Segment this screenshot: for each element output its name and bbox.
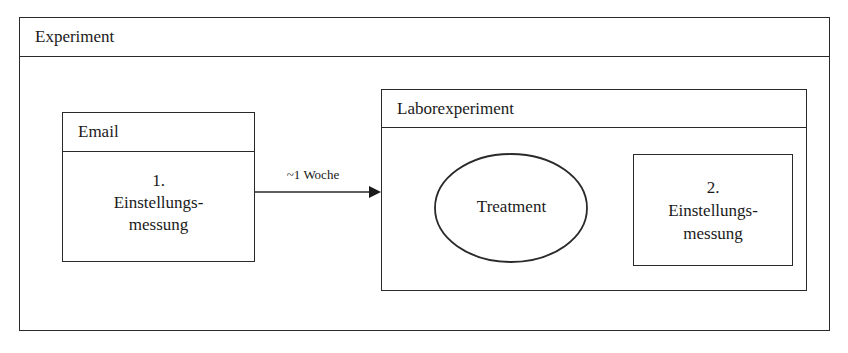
measure2-step-number: 2. — [634, 176, 792, 200]
arrow-head-icon — [369, 186, 381, 198]
treatment-label: Treatment — [435, 197, 588, 217]
measure2-line1: Einstellungs- — [634, 199, 792, 223]
measurement-2-box: 2. Einstellungs- messung — [633, 154, 793, 266]
measure2-line2: messung — [634, 222, 792, 246]
arrow-label: ~1 Woche — [263, 167, 363, 183]
